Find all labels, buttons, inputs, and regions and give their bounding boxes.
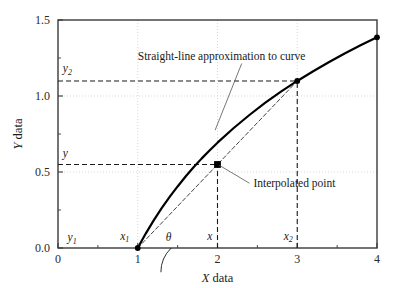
interpolation-chart: 012340.00.51.01.5Straight-line approxima… [0, 0, 396, 288]
xtick-label-2: 2 [215, 252, 221, 266]
y-axis-title: Y data [11, 118, 25, 149]
ytick-label-0: 0.0 [35, 241, 50, 255]
marker-point-x2 [294, 78, 300, 84]
marker-point-interpolated [214, 161, 221, 168]
xtick-label-1: 1 [135, 252, 141, 266]
theta-arc [161, 248, 171, 272]
marker-point-end [374, 34, 380, 40]
straight-line-annotation-leader [215, 64, 242, 131]
ytick-label-3: 1.5 [35, 13, 50, 27]
xtick-label-3: 3 [294, 252, 300, 266]
label-x: x [206, 230, 213, 242]
ytick-label-1: 0.5 [35, 165, 50, 179]
label-y1: y1 [67, 231, 77, 246]
xtick-label-0: 0 [55, 252, 61, 266]
series-curve [138, 37, 377, 248]
label-y: y [62, 147, 69, 160]
marker-point-x1 [135, 245, 141, 251]
ytick-label-2: 1.0 [35, 89, 50, 103]
label-x2: x2 [283, 230, 293, 245]
interpolated-point-annotation-leader [219, 165, 249, 183]
label-x1: x1 [119, 230, 129, 245]
interpolated-point-annotation-text: Interpolated point [253, 177, 336, 190]
x-axis-title: X data [201, 271, 234, 285]
xtick-label-4: 4 [374, 252, 380, 266]
straight-line-annotation-text: Straight-line approximation to curve [138, 50, 306, 63]
label-y2: y2 [62, 62, 72, 77]
label-theta: θ [166, 231, 172, 243]
chart-figure: 012340.00.51.01.5Straight-line approxima… [0, 0, 396, 288]
